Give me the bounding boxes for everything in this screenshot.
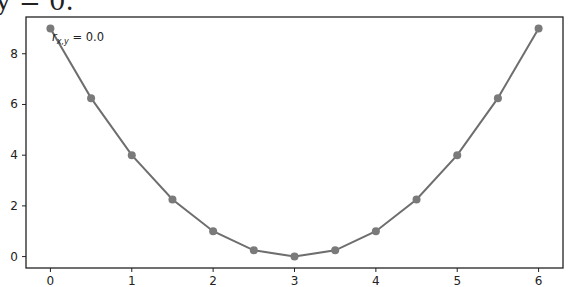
y-tick-label: 6 (10, 97, 18, 111)
data-point (413, 196, 421, 204)
correlation-annotation: rx,y = 0.0 (52, 30, 104, 46)
series-line (50, 28, 538, 256)
y-axis-ticks: 02468 (10, 47, 26, 264)
x-tick-label: 5 (453, 274, 461, 287)
y-tick-label: 0 (10, 250, 18, 264)
y-tick-label: 2 (10, 199, 18, 213)
data-point (535, 24, 543, 32)
x-tick-label: 6 (535, 274, 543, 287)
data-point (291, 253, 299, 261)
data-point (372, 227, 380, 235)
x-tick-label: 1 (128, 274, 136, 287)
data-point (494, 94, 502, 102)
y-tick-label: 4 (10, 148, 18, 162)
x-tick-label: 4 (372, 274, 380, 287)
x-axis-ticks: 0123456 (47, 268, 543, 287)
data-point (331, 246, 339, 254)
data-point (87, 94, 95, 102)
data-point (209, 227, 217, 235)
data-point (250, 246, 258, 254)
data-point (168, 196, 176, 204)
line-chart: 0123456 02468 rx,y = 0.0 (0, 0, 579, 287)
series-markers (46, 24, 542, 260)
data-point (453, 151, 461, 159)
y-tick-label: 8 (10, 47, 18, 61)
x-tick-label: 3 (291, 274, 299, 287)
axes-frame (26, 17, 563, 268)
x-tick-label: 2 (209, 274, 217, 287)
x-tick-label: 0 (47, 274, 55, 287)
data-point (128, 151, 136, 159)
